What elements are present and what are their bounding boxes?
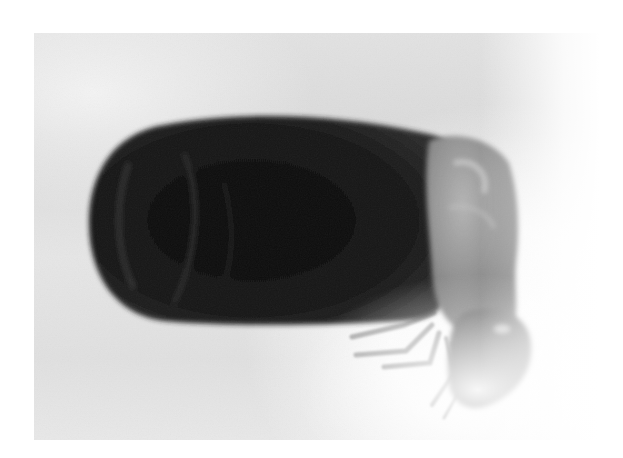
image-canvas: Grayscale photograph of an engorged inse… [0, 0, 623, 458]
specimen-photo [34, 33, 600, 440]
light-falloff-right [480, 33, 600, 440]
